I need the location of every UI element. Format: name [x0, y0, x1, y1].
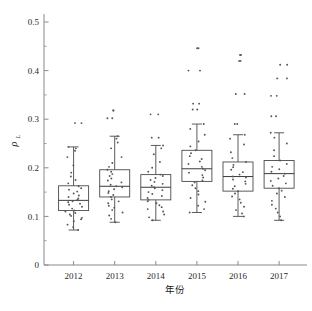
data-point [188, 163, 190, 165]
data-point [232, 188, 234, 190]
data-point [190, 152, 192, 154]
data-point [203, 208, 205, 210]
data-point [150, 179, 152, 181]
y-axis-title: ρL [8, 135, 21, 148]
data-point [76, 191, 78, 193]
data-point [244, 180, 246, 182]
data-point [110, 218, 112, 220]
outlier-point [157, 113, 159, 115]
data-point [113, 207, 115, 209]
data-point [75, 147, 77, 149]
data-point [151, 185, 153, 187]
data-point [233, 164, 235, 166]
data-point [74, 212, 76, 214]
data-point [161, 189, 163, 191]
data-point [204, 134, 206, 136]
data-point [197, 190, 199, 192]
data-point [66, 156, 68, 158]
data-point [110, 171, 112, 173]
data-point [235, 209, 237, 211]
data-point [286, 163, 288, 165]
data-point [277, 178, 279, 180]
outlier-point [235, 93, 237, 95]
chart-container: 00.10.20.30.40.5201220132014201520162017… [0, 0, 312, 311]
outlier-point [239, 54, 241, 56]
data-point [106, 117, 108, 119]
data-point [239, 198, 241, 200]
y-axis-title-subscript: L [14, 135, 21, 140]
data-point [68, 189, 70, 191]
data-point [244, 93, 246, 95]
x-tick-label: 2015 [188, 271, 207, 281]
data-point [79, 203, 81, 205]
data-point [64, 211, 66, 213]
outlier-point [198, 103, 200, 105]
data-point [161, 206, 163, 208]
outlier-point [234, 123, 236, 125]
data-point [192, 103, 194, 105]
data-point [153, 153, 155, 155]
data-point [159, 161, 161, 163]
data-point [151, 193, 153, 195]
data-point [162, 183, 164, 185]
data-point [70, 215, 72, 217]
data-point [284, 173, 286, 175]
data-point [241, 213, 243, 215]
data-point [107, 192, 109, 194]
box [100, 170, 130, 197]
data-point [162, 144, 164, 146]
data-point [107, 179, 109, 181]
outlier-point [196, 109, 198, 111]
data-point [147, 208, 149, 210]
outlier-point [279, 64, 281, 66]
data-point [151, 167, 153, 169]
x-tick-label: 2016 [229, 271, 248, 281]
data-point [199, 161, 201, 163]
data-point [110, 178, 112, 180]
data-point [197, 205, 199, 207]
data-point [68, 196, 70, 198]
outlier-point [74, 122, 76, 124]
outlier-point [238, 60, 240, 62]
data-point [148, 216, 150, 218]
data-point [67, 146, 69, 148]
data-point [275, 208, 277, 210]
data-point [279, 215, 281, 217]
data-point [201, 158, 203, 160]
y-tick-label: 0.4 [28, 66, 40, 76]
data-point [280, 219, 282, 221]
data-point [158, 204, 160, 206]
data-point [148, 199, 150, 201]
data-point [189, 155, 191, 157]
data-point [161, 195, 163, 197]
outlier-point [158, 137, 160, 139]
data-point [245, 161, 247, 163]
data-point [110, 147, 112, 149]
data-point [273, 155, 275, 157]
data-point [110, 184, 112, 186]
x-axis-title: 年份 [165, 284, 185, 295]
data-point [270, 132, 272, 134]
outlier-point [111, 117, 113, 119]
data-point [118, 200, 120, 202]
data-point [106, 169, 108, 171]
data-point [286, 77, 288, 79]
data-point [271, 204, 273, 206]
data-point [110, 196, 112, 198]
y-tick-label: 0.1 [28, 212, 39, 222]
data-point [276, 193, 278, 195]
data-point [198, 194, 200, 196]
data-point [283, 175, 285, 177]
data-point [271, 200, 273, 202]
outlier-point [275, 115, 277, 117]
data-point [202, 168, 204, 170]
data-point [242, 171, 244, 173]
data-point [163, 214, 165, 216]
boxplot-chart: 00.10.20.30.40.5201220132014201520162017… [0, 0, 312, 311]
y-axis-title-symbol: ρ [8, 141, 19, 147]
data-point [71, 208, 73, 210]
data-point [72, 226, 74, 228]
data-point [73, 220, 75, 222]
data-point [278, 187, 280, 189]
x-tick-label: 2012 [65, 271, 83, 281]
